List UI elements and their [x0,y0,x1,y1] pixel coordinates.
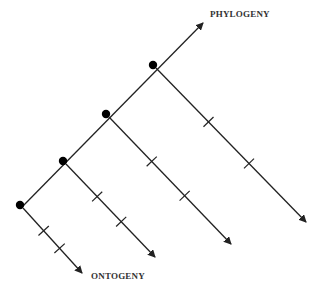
phylogeny-axis [22,23,203,207]
node-dot-1 [16,201,24,209]
ontogeny-branches [23,68,306,273]
ontogeny-label: ONTOGENY [91,271,145,281]
ontogeny-arrow-3 [109,117,231,244]
node-dot-3 [102,110,110,118]
ontogeny-arrow-4 [156,68,306,222]
node-dot-4 [149,61,157,69]
ontogeny-arrow-1 [23,208,82,273]
node-dots [16,61,157,209]
ontogeny-arrow-2 [66,164,155,257]
node-dot-2 [59,157,67,165]
phylogeny-ontogeny-diagram [0,0,313,294]
phylogeny-arrow [22,23,203,207]
phylogeny-label: PHYLOGENY [210,9,270,19]
